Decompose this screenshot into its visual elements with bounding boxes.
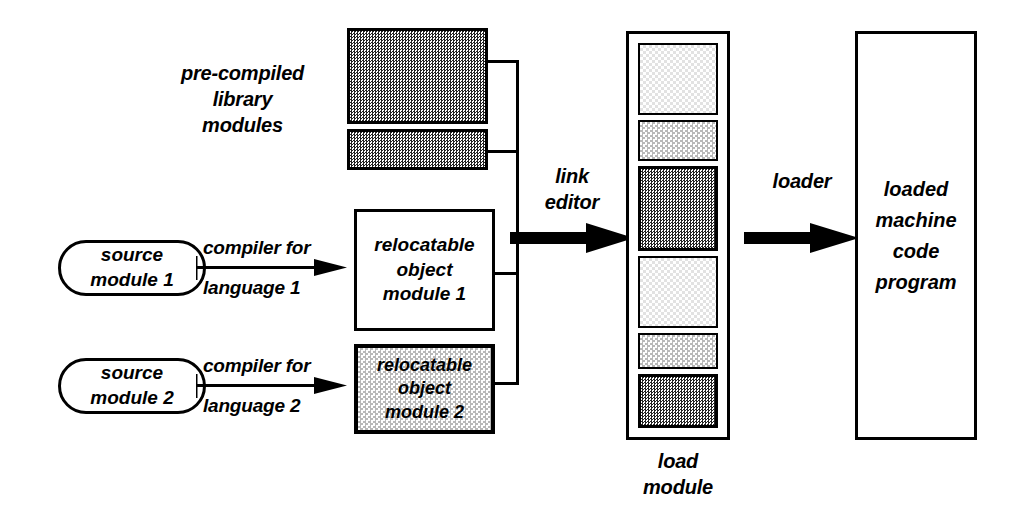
load-segment-4 [638,256,718,328]
loaded-machine-code-program-box [855,31,977,440]
load-segment-1 [638,43,718,115]
loader-label: loader [752,168,852,194]
source-module-1 [58,240,206,296]
load-module-label: load module [626,448,730,500]
compiler-1-bottom-label: language 1 [203,276,348,301]
diagram-canvas: pre-compiled library modules link editor… [0,0,1031,517]
precompiled-library-label: pre-compiled library modules [155,60,330,138]
load-segment-3 [638,166,718,251]
relocatable-object-module-2 [354,344,495,434]
loader-arrow [744,222,860,254]
connector-stub-library-1 [486,60,519,63]
source-module-2 [58,358,206,414]
load-segment-2 [638,120,718,161]
compiler-2-top-label: compiler for [203,354,348,379]
link-editor-arrow [510,222,635,254]
link-editor-label: link editor [527,163,617,215]
connector-stub-library-2 [486,150,519,153]
load-segment-6 [638,374,718,428]
library-module-1 [347,28,488,124]
load-segment-5 [638,333,718,369]
library-module-2 [347,129,488,170]
compiler-1-top-label: compiler for [203,236,348,261]
compiler-2-bottom-label: language 2 [203,394,348,419]
relocatable-object-module-1 [354,209,495,331]
